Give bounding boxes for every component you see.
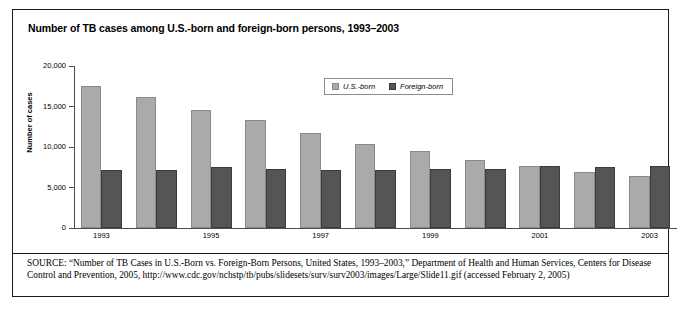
y-axis-tick-label: 5,000 (47, 183, 66, 193)
source-text: “Number of TB Cases in U.S.-Born vs. For… (27, 258, 651, 280)
source-divider (13, 253, 668, 254)
bar-foreign-born (101, 170, 122, 228)
bar-group (622, 66, 677, 228)
y-axis-tick-label: 10,000 (43, 142, 66, 152)
bar-foreign-born (430, 169, 451, 228)
legend-swatch-icon-us-born (332, 83, 339, 90)
bar-foreign-born (650, 166, 671, 228)
bar-group (184, 66, 239, 228)
bar-group (129, 66, 184, 228)
source-kicker: SOURCE: (27, 258, 67, 268)
bar-group (458, 66, 513, 228)
y-axis-tick: 20,000 (13, 61, 74, 71)
x-axis-tick-label: 1997 (293, 231, 348, 240)
bar-us-born (81, 86, 102, 228)
bar-us-born (574, 172, 595, 228)
bar-us-born (629, 176, 650, 228)
x-axis-tick-label: 1999 (403, 231, 458, 240)
bar-foreign-born (266, 169, 287, 228)
y-axis-title: Number of cases (25, 73, 34, 173)
x-axis-tick-label: 1993 (74, 231, 129, 240)
x-axis-tick-label: 1995 (184, 231, 239, 240)
bar-us-born (300, 133, 321, 228)
y-axis-tick: 10,000 (13, 142, 74, 152)
legend-swatch-icon-foreign-born (389, 83, 396, 90)
y-axis-tick-label: 20,000 (43, 61, 66, 71)
bar-foreign-born (595, 167, 616, 228)
chart-legend: U.S.-born Foreign-born (324, 78, 453, 95)
bar-us-born (519, 166, 540, 228)
figure-frame: Number of TB cases among U.S.-born and f… (12, 9, 669, 297)
y-axis-tick: 15,000 (13, 102, 74, 112)
bar-us-born (355, 144, 376, 228)
bar-us-born (245, 120, 266, 228)
bar-us-born (136, 97, 157, 228)
bar-foreign-born (211, 167, 232, 228)
y-axis-tick-label: 0 (62, 223, 66, 233)
bar-us-born (465, 160, 486, 228)
x-axis-labels: 199319951997199920012003 (74, 231, 677, 245)
bar-us-born (410, 151, 431, 228)
y-axis-tick: 5,000 (13, 183, 74, 193)
chart-plot-area: Number of cases 20,00015,00010,0005,0000… (13, 10, 668, 250)
bar-foreign-born (485, 169, 506, 228)
bar-group (74, 66, 129, 228)
y-axis-tick: 0 (13, 223, 74, 233)
bar-group (238, 66, 293, 228)
x-axis-tick-label: 2003 (622, 231, 677, 240)
bar-foreign-born (540, 166, 561, 228)
bar-foreign-born (321, 170, 342, 228)
bar-group (513, 66, 568, 228)
source-note: SOURCE: “Number of TB Cases in U.S.-Born… (27, 258, 655, 281)
x-axis-tick-label: 2001 (513, 231, 568, 240)
y-axis-tick-label: 15,000 (43, 102, 66, 112)
x-axis-line (74, 228, 677, 229)
bar-group (567, 66, 622, 228)
legend-label-us-born: U.S.-born (343, 82, 375, 91)
bar-us-born (191, 110, 212, 228)
legend-item-us-born: U.S.-born (332, 82, 375, 91)
legend-item-foreign-born: Foreign-born (389, 82, 443, 91)
bar-foreign-born (156, 170, 177, 228)
legend-label-foreign-born: Foreign-born (400, 82, 443, 91)
bar-foreign-born (375, 170, 396, 228)
